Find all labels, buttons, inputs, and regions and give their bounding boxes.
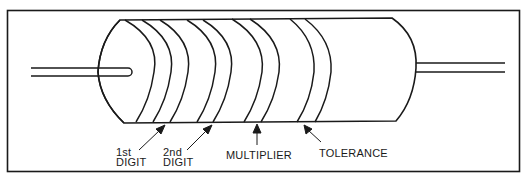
label-2nd-digit-line2: DIGIT	[163, 157, 193, 167]
arrow-multiplier	[253, 124, 261, 145]
label-multiplier: MULTIPLIER	[226, 150, 292, 160]
resistor-body	[98, 18, 416, 123]
label-1st-digit: 1st DIGIT	[116, 147, 146, 167]
label-2nd-digit: 2nd DIGIT	[163, 147, 193, 167]
right-lead-wire	[416, 63, 505, 72]
label-1st-digit-line2: DIGIT	[116, 157, 146, 167]
label-tolerance: TOLERANCE	[319, 148, 388, 158]
resistor-diagram: 1st DIGIT 2nd DIGIT MULTIPLIER TOLERANCE	[0, 0, 527, 177]
arrow-tolerance	[304, 125, 321, 142]
